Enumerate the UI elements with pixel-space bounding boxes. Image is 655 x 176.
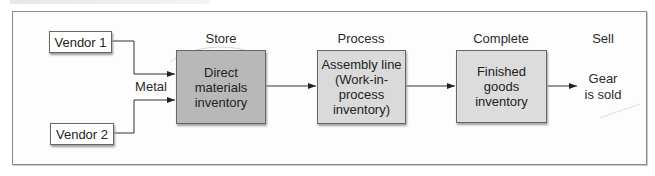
vendor-1-label: Vendor 1 <box>54 35 106 50</box>
metal-label: Metal <box>135 79 167 95</box>
stage-label-complete: Complete <box>473 31 529 46</box>
finished-goods-inventory-text: Finished goods inventory <box>475 64 528 109</box>
stage-label-sell: Sell <box>592 31 614 46</box>
stage-label-store: Store <box>205 31 236 46</box>
cropped-caption-strip <box>10 0 210 4</box>
vendor-2-label: Vendor 2 <box>56 127 108 142</box>
stage-label-process: Process <box>338 31 385 46</box>
direct-materials-inventory-text: Direct materials inventory <box>195 65 248 110</box>
gear-is-sold-text: Gear is sold <box>585 71 622 103</box>
work-in-process-inventory-box: Assembly line (Work-in- process inventor… <box>317 50 406 124</box>
vendor-1-box: Vendor 1 <box>49 31 112 53</box>
work-in-process-inventory-text: Assembly line (Work-in- process inventor… <box>321 57 401 117</box>
direct-materials-inventory-box: Direct materials inventory <box>176 50 266 124</box>
vendor-2-box: Vendor 2 <box>50 123 114 145</box>
finished-goods-inventory-box: Finished goods inventory <box>456 50 547 123</box>
